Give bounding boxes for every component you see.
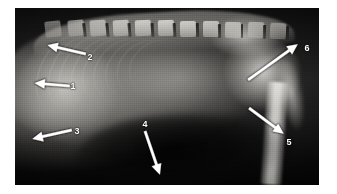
figure-root: 123456 xyxy=(0,0,337,194)
marker-1-label: 1 xyxy=(70,82,75,91)
spinous-process-gap xyxy=(218,24,221,38)
marker-3-label: 3 xyxy=(74,127,79,136)
marker-2-label: 2 xyxy=(87,53,92,62)
spinous-process-gap xyxy=(263,25,266,39)
spinous-process-gap xyxy=(150,23,154,37)
vertebra-body xyxy=(203,21,219,37)
marker-4-label: 4 xyxy=(142,120,147,129)
spinous-process-gap xyxy=(241,24,244,38)
marker-6-label: 6 xyxy=(304,44,309,53)
vertebra-body xyxy=(90,19,108,36)
spinous-process-gap xyxy=(285,26,288,40)
radiograph-image xyxy=(15,8,319,185)
spinous-process-gap xyxy=(195,23,198,37)
vertebra-body xyxy=(180,20,197,36)
vertebra-body xyxy=(45,20,63,38)
vertebra-body xyxy=(135,20,152,37)
marker-5-label: 5 xyxy=(286,138,291,147)
vertebra-body xyxy=(270,23,287,40)
vertebra-body xyxy=(225,22,242,38)
